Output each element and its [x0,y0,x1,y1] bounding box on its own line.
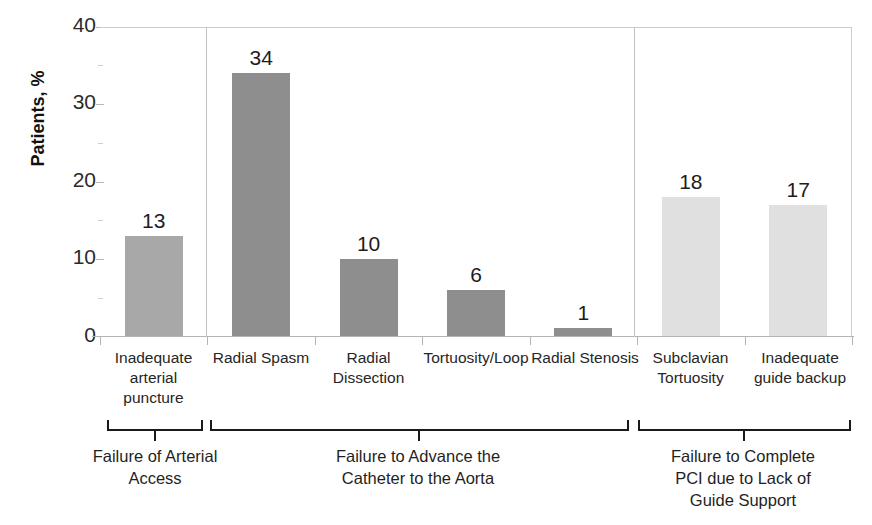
x-tick-7 [852,337,853,345]
bar-radial-spasm[interactable] [232,73,290,336]
category-label-line1: Radial Spasm [205,348,317,368]
group-caption-line1: Failure to Complete [643,445,843,467]
y-tick-label-0: 0 [50,323,96,347]
category-label-inadequate-guide-backup: Inadequate guide backup [742,348,858,388]
x-tick-5 [637,337,638,345]
group-caption-line1: Failure to Advance the [318,445,518,467]
category-label-line2: Dissection [315,368,422,388]
bracket-end-right [849,420,851,431]
category-label-line3: puncture [100,388,207,408]
category-label-line1: Inadequate [742,348,858,368]
bar-inadequate-arterial-puncture[interactable] [125,236,183,336]
x-tick-2 [315,337,316,345]
category-label-line2: arterial [100,368,207,388]
bar-tortuosity-loop[interactable] [447,290,505,336]
bar-radial-dissection[interactable] [340,259,398,336]
group-caption-line1: Failure of Arterial [55,445,255,467]
category-label-line2: Tortuosity [637,368,744,388]
y-tick-label-30: 30 [50,90,96,114]
category-label-line1: Radial [315,348,422,368]
bracket-stem [743,429,745,441]
bar-value-label-1: 34 [226,46,296,70]
bracket-end-right [627,420,629,431]
category-label-line1: Subclavian [637,348,744,368]
bar-value-label-0: 13 [119,209,189,233]
y-tick-label-10: 10 [50,245,96,269]
group-caption-line3: Guide Support [643,489,843,511]
group-caption-line2: Access [55,467,255,489]
bracket-stem [154,429,156,441]
group-caption-line2: Catheter to the Aorta [318,467,518,489]
group-bracket-1 [107,420,203,442]
bracket-stem [418,429,420,441]
category-label-line1: Tortuosity/Loop [415,348,537,368]
group-divider-2 [634,27,635,337]
y-tick-label-20: 20 [50,168,96,192]
bar-inadequate-guide-backup[interactable] [769,205,827,336]
bar-value-label-2: 10 [334,232,404,256]
category-label-subclavian-tortuosity: Subclavian Tortuosity [637,348,744,388]
category-label-radial-stenosis: Radial Stenosis [527,348,643,368]
y-tick-label-40: 40 [50,13,96,37]
group-divider-1 [206,27,207,337]
category-label-radial-spasm: Radial Spasm [205,348,317,368]
group-caption-failure-to-advance-catheter: Failure to Advance the Catheter to the A… [318,445,518,489]
x-tick-0 [100,337,101,345]
plot-area: 13 34 10 6 1 18 17 [100,27,852,337]
category-label-line2: guide backup [742,368,858,388]
bar-value-label-3: 6 [441,263,511,287]
group-bracket-3 [638,420,851,442]
category-label-tortuosity-loop: Tortuosity/Loop [415,348,537,368]
bracket-end-right [201,420,203,431]
group-caption-failure-to-complete-pci: Failure to Complete PCI due to Lack of G… [643,445,843,511]
category-label-line1: Inadequate [100,348,207,368]
bar-value-label-4: 1 [548,301,618,325]
bar-value-label-6: 17 [763,178,833,202]
group-caption-failure-of-arterial-access: Failure of Arterial Access [55,445,255,489]
x-tick-4 [530,337,531,345]
group-bracket-2 [210,420,629,442]
bar-chart: Patients, % 40 30 20 10 0 [0,0,872,525]
x-tick-1 [207,337,208,345]
category-label-radial-dissection: Radial Dissection [315,348,422,388]
plot-right-border [851,27,852,337]
bar-value-label-5: 18 [656,170,726,194]
x-tick-3 [422,337,423,345]
x-tick-6 [745,337,746,345]
category-label-inadequate-arterial-puncture: Inadequate arterial puncture [100,348,207,408]
plot-top-border [100,27,852,28]
group-caption-line2: PCI due to Lack of [643,467,843,489]
bar-radial-stenosis[interactable] [554,328,612,336]
category-label-line1: Radial Stenosis [527,348,643,368]
bar-subclavian-tortuosity[interactable] [662,197,720,336]
